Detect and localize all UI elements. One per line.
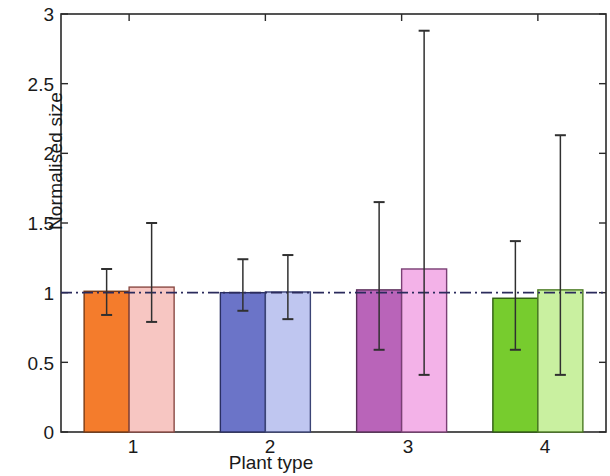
- x-tick-label-1: 1: [113, 436, 153, 458]
- y-tick-label-0: 0: [2, 422, 54, 444]
- y-tick-label-2.5: 2.5: [2, 74, 54, 96]
- y-tick-label-2: 2: [2, 143, 54, 165]
- x-tick-label-2: 2: [250, 436, 290, 458]
- bar-group2-bar-a: [220, 293, 265, 432]
- y-tick-label-1: 1: [2, 283, 54, 305]
- y-tick-label-3: 3: [2, 4, 54, 26]
- plot-area: [0, 0, 610, 476]
- y-tick-label-1.5: 1.5: [2, 213, 54, 235]
- y-tick-label-0.5: 0.5: [2, 353, 54, 375]
- x-tick-label-4: 4: [525, 436, 565, 458]
- bar-chart-figure: Normalised size Plant type 3 2.5 2 1.5 1…: [0, 0, 610, 476]
- x-tick-label-3: 3: [388, 436, 428, 458]
